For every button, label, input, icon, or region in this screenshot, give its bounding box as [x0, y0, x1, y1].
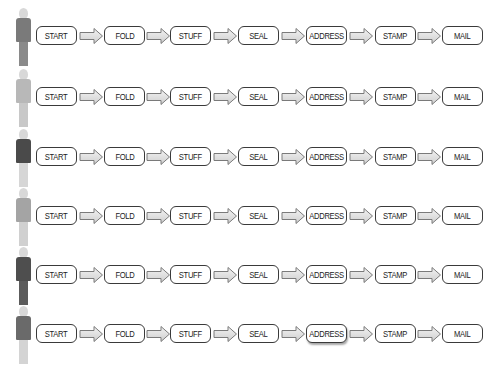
arrow-right-icon — [281, 148, 306, 166]
arrow-right-icon — [281, 266, 306, 284]
step-box-fold: FOLD — [104, 87, 145, 106]
person-legs — [19, 222, 28, 246]
arrow-right-icon — [79, 148, 104, 166]
step-box-start: START — [36, 265, 77, 284]
arrow-right-icon — [146, 148, 171, 166]
step-label: FOLD — [115, 269, 134, 280]
step-box-mail: MAIL — [442, 206, 483, 225]
step-box-address: ADDRESS — [306, 206, 347, 225]
arrow-right-icon — [281, 325, 306, 343]
person-torso — [16, 18, 31, 42]
step-label: FOLD — [115, 328, 134, 339]
arrow-right-icon — [281, 207, 306, 225]
step-box-address: ADDRESS — [306, 324, 347, 343]
step-label: STUFF — [179, 151, 202, 162]
step-box-stuff: STUFF — [170, 147, 211, 166]
step-box-stamp: STAMP — [375, 87, 416, 106]
step-label: START — [45, 151, 68, 162]
arrow-right-icon — [417, 88, 442, 106]
step-label: ADDRESS — [309, 30, 344, 41]
step-label: FOLD — [115, 210, 134, 221]
arrow-right-icon — [417, 148, 442, 166]
arrow-right-icon — [213, 207, 238, 225]
step-box-seal: SEAL — [238, 87, 279, 106]
step-box-fold: FOLD — [104, 206, 145, 225]
arrow-right-icon — [213, 148, 238, 166]
step-box-address: ADDRESS — [306, 26, 347, 45]
step-box-address: ADDRESS — [306, 87, 347, 106]
step-label: MAIL — [454, 151, 470, 162]
arrow-right-icon — [281, 88, 306, 106]
arrow-right-icon — [79, 325, 104, 343]
step-label: START — [45, 328, 68, 339]
step-label: FOLD — [115, 91, 134, 102]
step-box-fold: FOLD — [104, 147, 145, 166]
arrow-right-icon — [79, 266, 104, 284]
step-box-seal: SEAL — [238, 206, 279, 225]
step-label: STUFF — [179, 210, 202, 221]
arrow-right-icon — [349, 27, 374, 45]
arrow-right-icon — [146, 266, 171, 284]
step-label: MAIL — [454, 30, 470, 41]
step-box-fold: FOLD — [104, 324, 145, 343]
process-row: STARTFOLDSTUFFSEALADDRESSSTAMPMAIL — [0, 186, 501, 246]
arrow-right-icon — [349, 266, 374, 284]
step-box-mail: MAIL — [442, 265, 483, 284]
step-label: START — [45, 269, 68, 280]
step-label: MAIL — [454, 328, 470, 339]
person-torso — [16, 316, 31, 340]
step-box-seal: SEAL — [238, 324, 279, 343]
step-box-mail: MAIL — [442, 147, 483, 166]
step-label: SEAL — [249, 269, 267, 280]
person-legs — [19, 42, 28, 66]
step-box-stuff: STUFF — [170, 87, 211, 106]
arrow-right-icon — [213, 27, 238, 45]
step-box-fold: FOLD — [104, 265, 145, 284]
process-row: STARTFOLDSTUFFSEALADDRESSSTAMPMAIL — [0, 304, 501, 364]
arrow-right-icon — [213, 325, 238, 343]
person-torso — [16, 257, 31, 281]
arrow-right-icon — [417, 266, 442, 284]
step-box-seal: SEAL — [238, 147, 279, 166]
step-label: FOLD — [115, 30, 134, 41]
step-label: STAMP — [383, 210, 407, 221]
arrow-right-icon — [146, 27, 171, 45]
person-icon — [14, 188, 34, 246]
step-box-stamp: STAMP — [375, 324, 416, 343]
step-label: SEAL — [249, 328, 267, 339]
arrow-right-icon — [146, 325, 171, 343]
step-box-fold: FOLD — [104, 26, 145, 45]
arrow-right-icon — [417, 325, 442, 343]
person-torso — [16, 79, 31, 103]
arrow-right-icon — [349, 207, 374, 225]
person-legs — [19, 340, 28, 364]
person-torso — [16, 139, 31, 163]
person-torso — [16, 198, 31, 222]
step-label: SEAL — [249, 210, 267, 221]
step-label: START — [45, 91, 68, 102]
arrow-right-icon — [349, 325, 374, 343]
step-label: STAMP — [383, 328, 407, 339]
arrow-right-icon — [79, 207, 104, 225]
step-label: MAIL — [454, 210, 470, 221]
step-label: STAMP — [383, 151, 407, 162]
step-box-stamp: STAMP — [375, 265, 416, 284]
step-label: SEAL — [249, 91, 267, 102]
arrow-right-icon — [349, 148, 374, 166]
arrow-right-icon — [146, 88, 171, 106]
step-box-stuff: STUFF — [170, 324, 211, 343]
step-box-start: START — [36, 26, 77, 45]
person-icon — [14, 306, 34, 364]
step-label: STAMP — [383, 269, 407, 280]
step-box-stamp: STAMP — [375, 206, 416, 225]
step-label: STUFF — [179, 91, 202, 102]
step-box-seal: SEAL — [238, 265, 279, 284]
step-label: ADDRESS — [309, 91, 344, 102]
step-label: SEAL — [249, 30, 267, 41]
arrow-right-icon — [213, 266, 238, 284]
person-legs — [19, 281, 28, 305]
step-box-stamp: STAMP — [375, 26, 416, 45]
step-box-stuff: STUFF — [170, 26, 211, 45]
step-box-address: ADDRESS — [306, 147, 347, 166]
step-box-start: START — [36, 87, 77, 106]
